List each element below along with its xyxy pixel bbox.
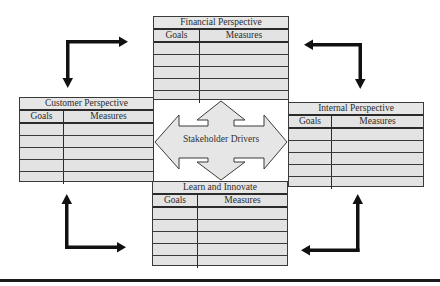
goals-header: Goals [154,30,200,41]
table-row [289,129,423,141]
goals-header: Goals [289,116,332,127]
internal-perspective-table: Internal Perspective Goals Measures [288,102,424,187]
corner-arrow-top-right-icon [304,40,366,90]
corner-arrow-bottom-left-icon [62,194,127,253]
table-row [20,160,153,172]
stakeholder-drivers-label: Stakeholder Drivers [153,134,289,144]
table-header-row: Goals Measures [154,30,288,43]
table-title: Learn and Innovate [153,182,287,195]
measures-header: Measures [200,30,288,41]
table-header-row: Goals Measures [20,111,153,124]
table-row [154,79,288,91]
table-title: Internal Perspective [289,103,423,116]
table-row [153,220,287,232]
table-row [20,172,153,184]
goals-header: Goals [153,195,198,206]
corner-arrow-bottom-right-icon [301,194,363,256]
table-row [289,153,423,165]
table-row [153,244,287,256]
table-row [289,165,423,177]
table-header-row: Goals Measures [289,116,423,129]
table-row [153,256,287,268]
table-row [153,232,287,244]
bottom-rule [0,279,440,282]
financial-perspective-table: Financial Perspective Goals Measures [153,16,289,100]
learn-and-innovate-table: Learn and Innovate Goals Measures [152,181,288,266]
table-row [20,148,153,160]
table-row [154,91,288,103]
table-row [154,43,288,55]
table-row [20,124,153,136]
table-title: Financial Perspective [154,17,288,30]
goals-header: Goals [20,111,64,122]
table-row [154,67,288,79]
table-row [289,177,423,189]
corner-arrow-top-left-icon [63,37,129,89]
customer-perspective-table: Customer Perspective Goals Measures [19,97,154,182]
table-header-row: Goals Measures [153,195,287,208]
table-title: Customer Perspective [20,98,153,111]
table-row [289,141,423,153]
measures-header: Measures [198,195,287,206]
table-row [153,208,287,220]
measures-header: Measures [64,111,153,122]
table-row [20,136,153,148]
table-row [154,55,288,67]
measures-header: Measures [332,116,423,127]
